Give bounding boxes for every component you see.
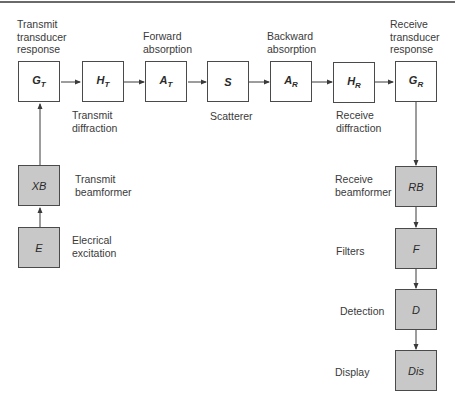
- box-transmit-transducer-response: GT: [18, 61, 60, 102]
- label-forward-absorption: Forward absorption: [143, 30, 192, 55]
- label-transmit-transducer-response: Transmit transducer response: [17, 18, 67, 56]
- box-forward-absorption: AT: [145, 61, 187, 102]
- box-detection: D: [395, 289, 437, 330]
- symbol-Dis: Dis: [408, 365, 424, 377]
- box-receive-diffraction: HR: [333, 62, 375, 103]
- box-backward-absorption: AR: [270, 61, 312, 102]
- box-display: Dis: [395, 350, 437, 391]
- symbol-AR: AR: [284, 74, 298, 89]
- label-receive-diffraction: Receive diffraction: [336, 109, 381, 134]
- symbol-RB: RB: [408, 181, 423, 193]
- label-transmit-diffraction: Transmit diffraction: [72, 109, 117, 134]
- label-electrical-excitation: Elecrical excitation: [72, 234, 116, 259]
- box-electrical-excitation: E: [18, 227, 60, 268]
- symbol-HT: HT: [97, 74, 110, 89]
- box-transmit-beamformer: XB: [18, 165, 60, 206]
- box-receive-transducer-response: GR: [395, 61, 437, 102]
- symbol-AT: AT: [160, 74, 173, 89]
- label-receive-beamformer: Receive beamformer: [335, 173, 392, 198]
- symbol-GT: GT: [32, 74, 45, 89]
- symbol-F: F: [413, 243, 420, 255]
- box-filters: F: [395, 228, 437, 269]
- label-transmit-beamformer: Transmit beamformer: [75, 173, 132, 198]
- symbol-E: E: [35, 242, 42, 254]
- label-detection: Detection: [340, 305, 384, 318]
- box-receive-beamformer: RB: [395, 166, 437, 207]
- box-transmit-diffraction: HT: [82, 61, 124, 102]
- label-backward-absorption: Backward absorption: [267, 30, 316, 55]
- label-scatterer: Scatterer: [210, 110, 253, 123]
- label-display: Display: [335, 366, 369, 379]
- label-receive-transducer-response: Receive transducer response: [390, 18, 440, 56]
- box-scatterer: S: [207, 61, 249, 102]
- symbol-S: S: [224, 76, 231, 88]
- symbol-D: D: [412, 304, 420, 316]
- label-filters: Filters: [336, 245, 365, 258]
- symbol-HR: HR: [347, 75, 361, 90]
- symbol-XB: XB: [32, 180, 47, 192]
- symbol-GR: GR: [409, 74, 423, 89]
